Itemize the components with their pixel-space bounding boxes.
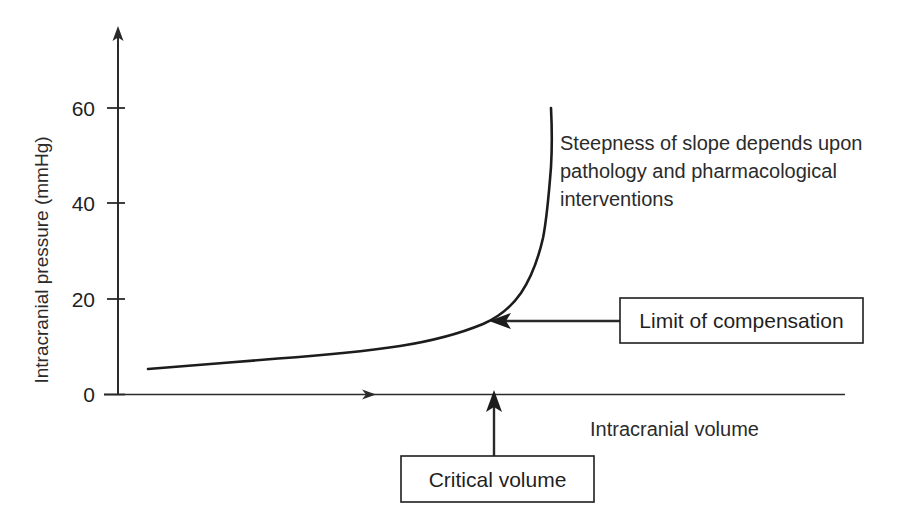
slope-note-line-3: interventions [560,188,673,210]
slope-note-annotation: Steepness of slope depends upon patholog… [560,132,862,210]
x-axis-title: Intracranial volume [590,418,759,440]
y-tick-label-40: 40 [72,192,95,215]
x-axis-group: Intracranial volume [104,390,845,441]
figure-root: 60 40 20 0 Intracranial pressure (mmHg) … [0,0,898,519]
critical-callout-label: Critical volume [429,468,567,491]
compliance-curve-figure: 60 40 20 0 Intracranial pressure (mmHg) … [0,0,898,519]
data-series-group [148,108,552,369]
y-tick-label-20: 20 [72,288,95,311]
y-axis-title: Intracranial pressure (mmHg) [31,136,52,383]
pressure-volume-curve [148,108,552,369]
y-axis-group: 60 40 20 0 Intracranial pressure (mmHg) [31,26,125,406]
slope-note-line-1: Steepness of slope depends upon [560,132,862,154]
critical-volume-callout: Critical volume [401,390,594,502]
slope-note-line-2: pathology and pharmacological [560,160,837,182]
y-tick-label-60: 60 [72,97,95,120]
limit-of-compensation-callout: Limit of compensation [489,298,863,343]
y-tick-label-0: 0 [83,383,95,406]
limit-callout-label: Limit of compensation [639,309,843,332]
